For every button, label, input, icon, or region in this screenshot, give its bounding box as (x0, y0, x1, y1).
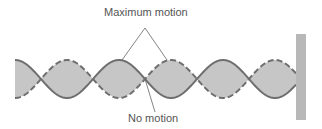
wave-envelope-fill (15, 60, 296, 98)
antinode-pointer-line-left (122, 28, 145, 60)
maximum-motion-label: Maximum motion (104, 6, 188, 18)
fixed-wall (296, 34, 306, 120)
antinode-pointer-line-right (145, 28, 167, 60)
standing-wave-diagram (0, 0, 322, 129)
no-motion-label: No motion (128, 112, 178, 124)
